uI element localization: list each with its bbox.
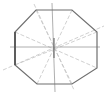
dashed-symmetry-line bbox=[15, 32, 97, 65]
octagon-diagram bbox=[0, 0, 107, 94]
diagram-svg bbox=[0, 0, 107, 94]
dashed-symmetry-line bbox=[15, 32, 97, 68]
